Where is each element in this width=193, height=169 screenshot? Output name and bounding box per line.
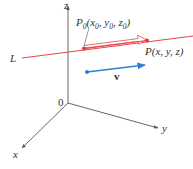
vector-v-label: v	[114, 70, 120, 82]
z-axis-label: z	[63, 0, 69, 11]
x-axis	[22, 103, 68, 148]
p0-label: P0(x0, y0, z0)	[75, 16, 130, 31]
x-axis-label: x	[12, 148, 18, 160]
origin-label: 0	[58, 96, 64, 108]
point-p	[145, 39, 149, 43]
point-p0	[82, 47, 86, 51]
line-L-label: L	[9, 52, 16, 64]
p-label: P(x, y, z)	[144, 45, 184, 58]
vector-v-tail	[85, 70, 89, 74]
y-axis	[68, 103, 158, 128]
y-axis-label: y	[161, 122, 167, 134]
line-through-point-diagram: z y x 0 L P0(x0, y0, z0) P(x, y, z) v	[0, 0, 193, 169]
p0-leader-line	[84, 28, 89, 46]
